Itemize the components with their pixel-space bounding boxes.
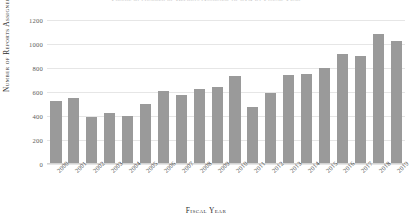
bar-slot — [316, 20, 334, 163]
bar-slot — [208, 20, 226, 163]
y-axis-title: Number of Reports Assigned — [2, 0, 11, 92]
bar-slot — [154, 20, 172, 163]
x-tick-slot: 2000 — [47, 166, 65, 200]
bar[interactable] — [86, 117, 97, 163]
bar[interactable] — [176, 95, 187, 163]
x-tick-slot: 2012 — [262, 166, 280, 200]
x-tick-slot: 2014 — [298, 166, 316, 200]
x-tick-slot: 2005 — [137, 166, 155, 200]
bar[interactable] — [104, 113, 115, 163]
x-tick-slot: 2003 — [101, 166, 119, 200]
x-tick-slot: 2013 — [280, 166, 298, 200]
bar[interactable] — [194, 89, 205, 163]
bar-slot — [47, 20, 65, 163]
y-axis-tick-label: 400 — [33, 113, 44, 120]
y-axis-tick-label: 600 — [33, 89, 44, 96]
bar-slot — [119, 20, 137, 163]
bar[interactable] — [229, 76, 240, 163]
bar[interactable] — [50, 101, 61, 163]
bar-slot — [334, 20, 352, 163]
chart-title: Figure 3: Number of Reports Assigned to … — [0, 0, 412, 4]
bar[interactable] — [337, 54, 348, 163]
x-tick-slot: 2002 — [83, 166, 101, 200]
bar[interactable] — [247, 107, 258, 163]
x-tick-slot: 2011 — [244, 166, 262, 200]
bar-slot — [298, 20, 316, 163]
y-axis-tick-label: 0 — [40, 161, 44, 168]
x-tick-slot: 2001 — [65, 166, 83, 200]
y-axis-tick-label: 1200 — [29, 17, 43, 24]
bar-slot — [83, 20, 101, 163]
y-axis-tick-label: 800 — [33, 65, 44, 72]
y-axis-tick-label: 200 — [33, 137, 44, 144]
x-axis-title: Fiscal Year — [0, 206, 412, 215]
bar[interactable] — [301, 74, 312, 163]
bar[interactable] — [319, 68, 330, 163]
x-tick-slot: 2015 — [316, 166, 334, 200]
x-tick-slot: 2009 — [208, 166, 226, 200]
bar-slot — [280, 20, 298, 163]
bar-slot — [244, 20, 262, 163]
bar-slot — [226, 20, 244, 163]
bar-slot — [351, 20, 369, 163]
plot-area: 020040060080010001200 — [47, 20, 405, 164]
x-tick-slot: 2017 — [351, 166, 369, 200]
bar[interactable] — [355, 56, 366, 163]
bar-slot — [369, 20, 387, 163]
bar[interactable] — [391, 41, 402, 163]
y-axis-tick-label: 1000 — [29, 41, 43, 48]
bar[interactable] — [212, 87, 223, 163]
bar-slot — [262, 20, 280, 163]
x-axis-ticks: 2000200120022003200420052006200720082009… — [47, 166, 405, 200]
x-tick-slot: 2006 — [154, 166, 172, 200]
bar[interactable] — [373, 34, 384, 163]
bar-chart: Figure 3: Number of Reports Assigned to … — [0, 0, 412, 220]
x-tick-slot: 2004 — [119, 166, 137, 200]
bar[interactable] — [140, 104, 151, 163]
bar[interactable] — [283, 75, 294, 163]
bar[interactable] — [122, 116, 133, 163]
bar[interactable] — [158, 91, 169, 163]
bar[interactable] — [68, 98, 79, 163]
bar-slot — [137, 20, 155, 163]
x-tick-slot: 2018 — [369, 166, 387, 200]
bar-slot — [387, 20, 405, 163]
x-tick-slot: 2019 — [387, 166, 405, 200]
bar-slot — [172, 20, 190, 163]
bar-slot — [190, 20, 208, 163]
x-tick-slot: 2010 — [226, 166, 244, 200]
x-tick-slot: 2008 — [190, 166, 208, 200]
bar-slot — [101, 20, 119, 163]
x-tick-slot: 2007 — [172, 166, 190, 200]
x-tick-slot: 2016 — [334, 166, 352, 200]
bar[interactable] — [265, 93, 276, 163]
bar-series — [47, 20, 405, 163]
bar-slot — [65, 20, 83, 163]
